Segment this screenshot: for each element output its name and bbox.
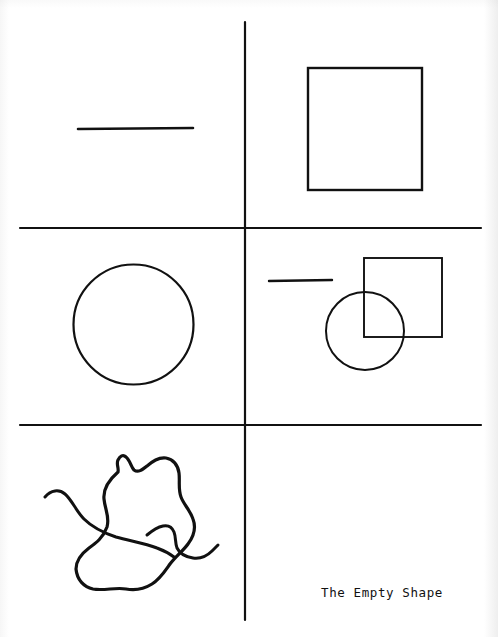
quadrant-top-left [78, 128, 193, 129]
figure-page: The Empty Shape [0, 0, 498, 637]
figure-caption: The Empty Shape [321, 585, 443, 600]
quadrant-middle-right [269, 258, 442, 370]
line-segment [78, 128, 193, 129]
quadrant-bottom-left [45, 456, 218, 590]
blob [76, 456, 194, 590]
circle [326, 292, 404, 370]
line-drawing-canvas [0, 0, 498, 637]
square [308, 68, 422, 190]
line-segment [269, 280, 332, 281]
quadrant-middle-left [74, 265, 194, 385]
circle [74, 265, 194, 385]
squiggle-tail [147, 526, 218, 558]
squiggle [45, 491, 174, 557]
quadrant-top-right [308, 68, 422, 190]
divider-group [20, 22, 481, 620]
